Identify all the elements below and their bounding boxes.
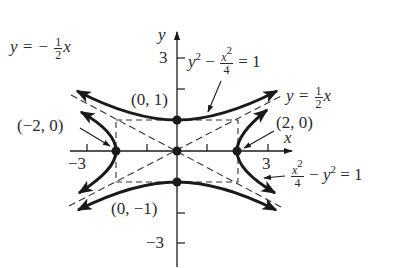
y-axis-label: y bbox=[158, 26, 166, 43]
horizontal-hyperbola-equation: x24 − y2 = 1 bbox=[290, 163, 363, 189]
x-tick-label-3: 3 bbox=[262, 155, 271, 172]
point-2-0 bbox=[233, 147, 242, 156]
y-tick-label-neg3: −3 bbox=[146, 234, 164, 251]
point-label-0-1: (0, 1) bbox=[131, 91, 168, 108]
horizontal-hyperbola-left-branch bbox=[79, 112, 116, 193]
point-origin bbox=[173, 147, 182, 156]
leader-vertical-hyperbola bbox=[208, 81, 221, 112]
point-0-neg1 bbox=[173, 178, 182, 187]
asymptote-negative-label: y = − 12x bbox=[10, 36, 71, 61]
point-label-0-neg1: (0, −1) bbox=[111, 200, 157, 217]
point-neg2-0 bbox=[112, 147, 121, 156]
asymptote-positive-label: y = 12x bbox=[286, 85, 331, 110]
point-label-2-0: (2, 0) bbox=[276, 114, 313, 131]
point-0-1 bbox=[173, 116, 182, 125]
y-tick-label-3: 3 bbox=[159, 49, 168, 66]
vertical-hyperbola-equation: y2 − x24 = 1 bbox=[188, 50, 261, 76]
point-label-neg2-0: (−2, 0) bbox=[17, 117, 63, 134]
leader-horizontal-hyperbola bbox=[264, 176, 285, 178]
x-tick-label-neg3: −3 bbox=[68, 155, 86, 172]
leader-2-0 bbox=[244, 131, 274, 148]
